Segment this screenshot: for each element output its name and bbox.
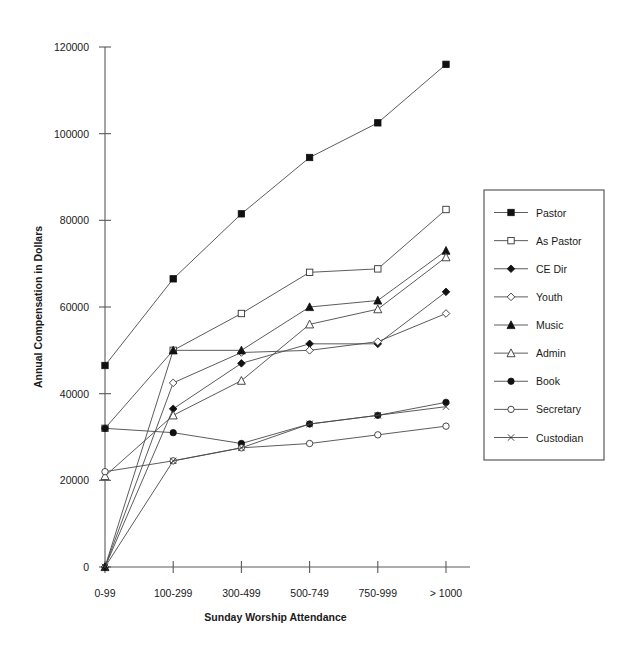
x-tick-label: 500-749: [290, 587, 329, 599]
axes: [105, 47, 470, 567]
y-axis-ticks: 020000400006000080000100000120000: [54, 41, 111, 573]
series-pastor: [102, 61, 449, 369]
series-youth: [101, 310, 450, 571]
line-chart: 0200004000060000800001000001200000-99100…: [0, 0, 629, 656]
x-tick-label: 750-999: [359, 587, 398, 599]
marker-filled-square: [102, 362, 108, 368]
marker-filled-diamond: [238, 360, 246, 368]
legend-item-label: Book: [536, 375, 561, 387]
series-line: [105, 251, 446, 567]
marker-open-square: [238, 310, 244, 316]
y-tick-label: 120000: [54, 41, 89, 53]
legend-item-label: Youth: [536, 291, 563, 303]
series-line: [105, 314, 446, 568]
legend-item-label: Secretary: [536, 403, 582, 415]
marker-filled-circle: [170, 429, 176, 435]
x-tick-label: 300-499: [222, 587, 261, 599]
marker-filled-diamond: [442, 288, 450, 296]
marker-open-diamond: [169, 379, 177, 387]
marker-open-square: [375, 266, 381, 272]
marker-filled-circle: [102, 425, 108, 431]
marker-open-circle: [443, 423, 449, 429]
y-tick-label: 80000: [60, 214, 89, 226]
legend-item-label: As Pastor: [536, 235, 582, 247]
y-tick-label: 0: [83, 561, 89, 573]
legend-item-label: Admin: [536, 347, 566, 359]
legend-item-label: CE Dir: [536, 263, 567, 275]
marker-open-circle: [306, 440, 312, 446]
legend-item-label: Pastor: [536, 207, 567, 219]
legend: PastorAs PastorCE DirYouthMusicAdminBook…: [484, 190, 604, 460]
marker-filled-square: [306, 154, 312, 160]
marker-open-square: [508, 237, 514, 243]
y-tick-label: 60000: [60, 301, 89, 313]
marker-open-diamond: [306, 347, 314, 355]
series-line: [105, 64, 446, 365]
chart-container: 0200004000060000800001000001200000-99100…: [0, 0, 629, 656]
y-tick-label: 100000: [54, 128, 89, 140]
series-ce-dir: [101, 288, 450, 571]
series-custodian: [102, 403, 449, 570]
legend-item-label: Music: [536, 319, 563, 331]
marker-open-square: [443, 206, 449, 212]
y-axis-title: Annual Compensation in Dollars: [32, 226, 44, 388]
series-line: [105, 210, 446, 429]
series-as-pastor: [102, 206, 449, 431]
x-axis-title: Sunday Worship Attendance: [204, 611, 347, 623]
marker-open-circle: [375, 432, 381, 438]
legend-item-label: Custodian: [536, 432, 583, 444]
series-line: [105, 257, 446, 476]
marker-filled-square: [508, 209, 514, 215]
y-tick-label: 40000: [60, 388, 89, 400]
y-tick-label: 20000: [60, 474, 89, 486]
series-book: [102, 399, 449, 447]
series-line: [105, 402, 446, 443]
x-tick-label: > 1000: [430, 587, 463, 599]
x-tick-label: 100-299: [154, 587, 193, 599]
marker-filled-circle: [508, 378, 514, 384]
marker-filled-triangle: [374, 296, 382, 304]
marker-filled-square: [443, 61, 449, 67]
marker-open-circle: [102, 468, 108, 474]
series-group: [101, 61, 450, 571]
marker-open-triangle: [237, 376, 245, 384]
marker-filled-square: [238, 211, 244, 217]
x-tick-label: 0-99: [94, 587, 115, 599]
marker-open-diamond: [442, 310, 450, 318]
series-secretary: [102, 423, 449, 475]
marker-open-circle: [508, 406, 514, 412]
marker-open-square: [306, 269, 312, 275]
marker-filled-square: [170, 276, 176, 282]
marker-filled-square: [375, 120, 381, 126]
series-music: [101, 246, 450, 570]
marker-open-triangle: [374, 305, 382, 313]
